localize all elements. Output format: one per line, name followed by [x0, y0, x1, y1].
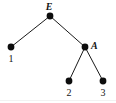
edge-A-3: [85, 47, 103, 81]
tree-graphic: [0, 0, 116, 103]
node-dot-3: [100, 78, 107, 85]
node-dot-2: [66, 78, 73, 85]
bottom-edge-artifact: [0, 100, 116, 101]
node-dot-A: [82, 44, 89, 51]
node-dot-E: [47, 13, 54, 20]
edge-group: [11, 16, 103, 81]
tree-diagram-figure: E 1 A 2 3: [0, 0, 116, 103]
edge-E-A: [50, 16, 85, 47]
edge-A-2: [69, 47, 85, 81]
node-dot-1: [8, 44, 15, 51]
edge-E-1: [11, 16, 50, 47]
node-group: [8, 13, 107, 85]
